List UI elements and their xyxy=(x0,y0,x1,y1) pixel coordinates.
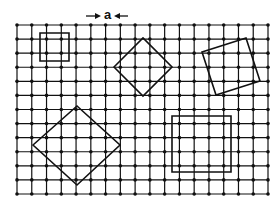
grid-dot xyxy=(266,164,270,168)
grid-dot xyxy=(207,178,211,182)
grid-dot xyxy=(15,164,19,168)
grid-dot xyxy=(15,136,19,140)
grid-dot xyxy=(237,164,241,168)
grid-dot xyxy=(133,23,137,27)
grid-dot xyxy=(59,23,63,27)
grid-dot xyxy=(119,164,123,168)
grid-dot xyxy=(266,192,270,196)
grid-dot xyxy=(119,37,123,41)
grid-dot xyxy=(192,37,196,41)
grid-dot xyxy=(74,150,78,154)
grid-dot xyxy=(222,164,226,168)
grid-dot xyxy=(133,37,137,41)
grid-dot xyxy=(178,65,182,69)
grid-dot xyxy=(237,192,241,196)
grid-dot xyxy=(59,51,63,55)
grid-dot xyxy=(104,122,108,126)
grid-dot xyxy=(104,108,108,112)
grid-dot xyxy=(266,80,270,84)
grid-dot xyxy=(266,94,270,98)
grid-dot xyxy=(266,23,270,27)
grid-dot xyxy=(119,122,123,126)
grid-dot xyxy=(104,150,108,154)
grid-dot xyxy=(74,80,78,84)
grid-dot xyxy=(237,122,241,126)
grid-dot xyxy=(133,51,137,55)
grid-dot xyxy=(163,108,167,112)
grid-dot xyxy=(207,23,211,27)
grid-dot xyxy=(15,65,19,69)
grid-dot xyxy=(30,37,34,41)
grid-figure xyxy=(0,0,279,212)
grid-dot xyxy=(119,192,123,196)
grid-dot xyxy=(192,150,196,154)
grid-dot xyxy=(89,178,93,182)
grid-dot xyxy=(119,108,123,112)
grid-dot xyxy=(74,23,78,27)
arrow-right-icon xyxy=(95,13,101,19)
grid-dot xyxy=(237,94,241,98)
grid-dot xyxy=(192,51,196,55)
grid-dot xyxy=(119,136,123,140)
grid-dot xyxy=(178,108,182,112)
grid-dot xyxy=(207,80,211,84)
grid-dot xyxy=(89,80,93,84)
grid-dot xyxy=(178,37,182,41)
grid-dot xyxy=(148,23,152,27)
grid-dot xyxy=(45,122,49,126)
grid-dot xyxy=(30,23,34,27)
grid-dot xyxy=(15,108,19,112)
grid-dot xyxy=(89,65,93,69)
grid-dot xyxy=(119,94,123,98)
grid-dot xyxy=(133,122,137,126)
grid-dot xyxy=(133,94,137,98)
grid-dot xyxy=(163,136,167,140)
grid-dot xyxy=(178,192,182,196)
grid-dot xyxy=(30,122,34,126)
grid-dot xyxy=(89,136,93,140)
grid-dot xyxy=(192,122,196,126)
grid-dot xyxy=(104,94,108,98)
grid-dot xyxy=(89,150,93,154)
grid-dot xyxy=(133,108,137,112)
grid-dot xyxy=(15,23,19,27)
grid-dot xyxy=(74,178,78,182)
grid-dot xyxy=(59,37,63,41)
grid-dot xyxy=(163,178,167,182)
grid-dot xyxy=(133,178,137,182)
grid-dot xyxy=(89,164,93,168)
grid-dot xyxy=(30,178,34,182)
grid-dot xyxy=(89,37,93,41)
grid-dot xyxy=(45,23,49,27)
grid-dot xyxy=(222,65,226,69)
grid-dot xyxy=(178,80,182,84)
grid-dot xyxy=(104,37,108,41)
grid-dot xyxy=(266,65,270,69)
grid-dot xyxy=(45,37,49,41)
grid-dot xyxy=(148,65,152,69)
grid-dot xyxy=(104,164,108,168)
grid-dot xyxy=(119,178,123,182)
grid-dot xyxy=(222,37,226,41)
grid-dot xyxy=(207,150,211,154)
grid-dot xyxy=(163,51,167,55)
grid-dot xyxy=(251,23,255,27)
grid-dot xyxy=(178,51,182,55)
grid-dot xyxy=(222,122,226,126)
grid-dot xyxy=(45,136,49,140)
grid-dot xyxy=(74,164,78,168)
grid-dot xyxy=(148,164,152,168)
grid-dot xyxy=(148,51,152,55)
grid-dot xyxy=(89,122,93,126)
grid-dot xyxy=(163,94,167,98)
grid-dot xyxy=(74,51,78,55)
grid-dot xyxy=(163,164,167,168)
grid-dot xyxy=(266,37,270,41)
grid-dot xyxy=(104,80,108,84)
grid-dot xyxy=(15,51,19,55)
grid-dot xyxy=(119,51,123,55)
grid-dot xyxy=(222,51,226,55)
grid-dot xyxy=(192,23,196,27)
grid-dot xyxy=(266,178,270,182)
grid-dot xyxy=(163,150,167,154)
